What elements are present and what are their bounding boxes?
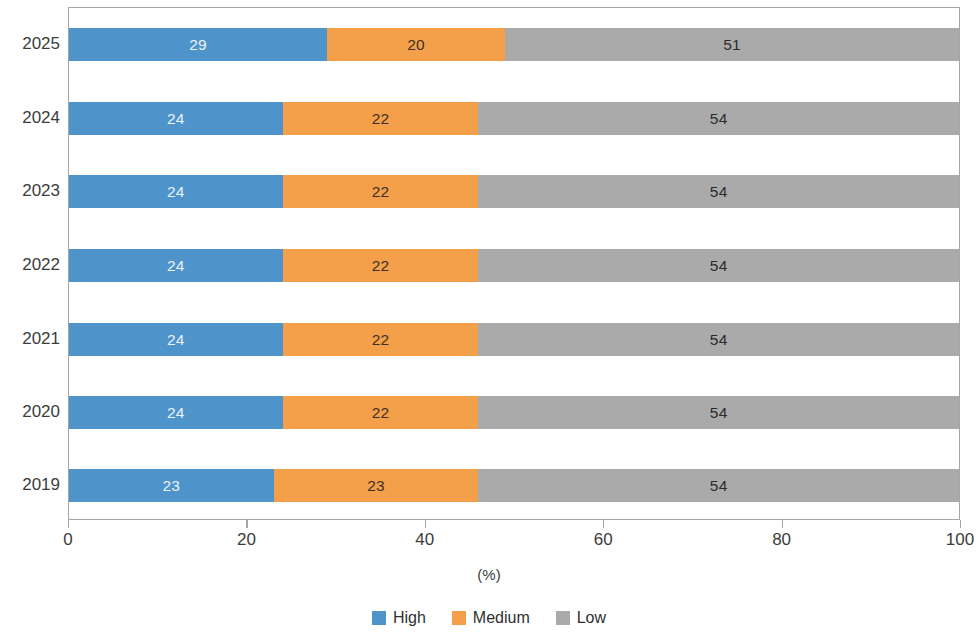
bar-row-2019: 232354 (69, 469, 959, 502)
y-axis-label-2020: 2020 (0, 395, 60, 428)
bar-segment-low-2022: 54 (478, 249, 959, 282)
bar-value-label: 29 (189, 36, 207, 54)
y-axis-label-text: 2022 (22, 255, 60, 275)
legend-label: High (393, 610, 426, 626)
bar-segment-low-2019: 54 (478, 469, 959, 502)
x-axis-title: (%) (0, 566, 978, 583)
x-axis-tick-label-0: 0 (63, 530, 72, 550)
bar-value-label: 24 (167, 110, 185, 128)
bar-row-2024: 242254 (69, 102, 959, 135)
bar-segment-high-2024: 24 (69, 102, 283, 135)
legend-swatch-high (372, 611, 386, 625)
bar-value-label: 54 (710, 257, 728, 275)
x-axis-tick-label-40: 40 (415, 530, 434, 550)
bar-value-label: 54 (710, 110, 728, 128)
bar-segment-medium-2019: 23 (274, 469, 479, 502)
bar-segment-high-2025: 29 (69, 28, 327, 61)
y-axis-label-text: 2023 (22, 181, 60, 201)
bar-segment-high-2020: 24 (69, 396, 283, 429)
y-axis-label-2021: 2021 (0, 322, 60, 355)
chart-legend: HighMediumLow (0, 610, 978, 626)
bar-segment-medium-2023: 22 (283, 175, 479, 208)
x-axis-tick-label-100: 100 (946, 530, 974, 550)
y-axis-label-text: 2021 (22, 329, 60, 349)
y-axis-label-text: 2025 (22, 34, 60, 54)
bar-row-2021: 242254 (69, 323, 959, 356)
x-axis-tick-mark-100 (960, 520, 961, 528)
bar-value-label: 22 (372, 257, 390, 275)
y-axis-label-text: 2024 (22, 108, 60, 128)
y-axis-label-text: 2019 (22, 475, 60, 495)
bar-value-label: 23 (367, 477, 385, 495)
bar-segment-high-2023: 24 (69, 175, 283, 208)
bar-value-label: 23 (163, 477, 181, 495)
bar-segment-low-2025: 51 (505, 28, 959, 61)
legend-swatch-medium (452, 611, 466, 625)
y-axis-label-2019: 2019 (0, 468, 60, 501)
plot-area: 2920512422542422542422542422542422542323… (68, 7, 960, 520)
y-axis-label-2025: 2025 (0, 27, 60, 60)
x-axis-tick-label-20: 20 (237, 530, 256, 550)
bar-segment-low-2023: 54 (478, 175, 959, 208)
legend-label: Low (577, 610, 606, 626)
y-axis-label-2023: 2023 (0, 174, 60, 207)
bar-value-label: 24 (167, 183, 185, 201)
bar-row-2022: 242254 (69, 249, 959, 282)
bar-value-label: 22 (372, 110, 390, 128)
bar-value-label: 24 (167, 331, 185, 349)
bar-value-label: 54 (710, 477, 728, 495)
bar-value-label: 22 (372, 183, 390, 201)
bar-segment-low-2021: 54 (478, 323, 959, 356)
legend-label: Medium (473, 610, 530, 626)
legend-item-high[interactable]: High (372, 610, 426, 626)
x-axis-tick-mark-80 (782, 520, 783, 528)
bar-segment-medium-2025: 20 (327, 28, 505, 61)
bar-row-2020: 242254 (69, 396, 959, 429)
bar-value-label: 54 (710, 183, 728, 201)
y-axis-label-2022: 2022 (0, 248, 60, 281)
bar-value-label: 22 (372, 404, 390, 422)
y-axis-label-text: 2020 (22, 402, 60, 422)
bar-segment-medium-2021: 22 (283, 323, 479, 356)
bar-segment-high-2021: 24 (69, 323, 283, 356)
x-axis-tick-label-80: 80 (772, 530, 791, 550)
x-axis-tick-mark-40 (425, 520, 426, 528)
bar-value-label: 24 (167, 257, 185, 275)
stacked-bar-chart: 2025202420232022202120202019 29205124225… (0, 0, 978, 638)
bar-segment-low-2024: 54 (478, 102, 959, 135)
bar-row-2023: 242254 (69, 175, 959, 208)
bar-value-label: 54 (710, 404, 728, 422)
legend-item-low[interactable]: Low (556, 610, 606, 626)
x-axis-tick-mark-20 (246, 520, 247, 528)
bar-value-label: 54 (710, 331, 728, 349)
bar-segment-low-2020: 54 (478, 396, 959, 429)
legend-swatch-low (556, 611, 570, 625)
bar-segment-medium-2024: 22 (283, 102, 479, 135)
x-axis-tick-mark-60 (603, 520, 604, 528)
bar-segment-medium-2020: 22 (283, 396, 479, 429)
bar-value-label: 20 (407, 36, 425, 54)
bar-segment-high-2019: 23 (69, 469, 274, 502)
bar-value-label: 51 (723, 36, 741, 54)
x-axis-tick-label-60: 60 (594, 530, 613, 550)
bar-value-label: 22 (372, 331, 390, 349)
bar-value-label: 24 (167, 404, 185, 422)
y-axis-label-2024: 2024 (0, 101, 60, 134)
bar-segment-medium-2022: 22 (283, 249, 479, 282)
x-axis-tick-mark-0 (68, 520, 69, 528)
bar-row-2025: 292051 (69, 28, 959, 61)
bar-segment-high-2022: 24 (69, 249, 283, 282)
legend-item-medium[interactable]: Medium (452, 610, 530, 626)
